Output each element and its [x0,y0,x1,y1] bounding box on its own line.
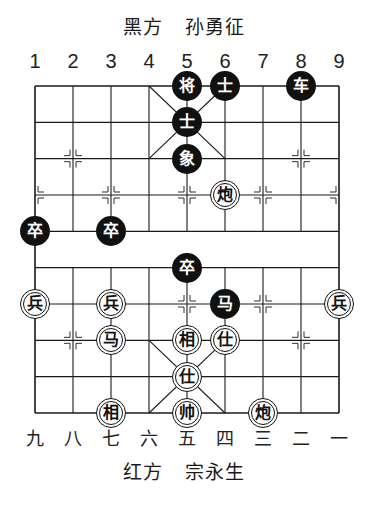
file-numeral-5: 五 [172,424,202,450]
piece-glyph: 兵 [27,296,43,312]
red-piece-兵[interactable]: 兵 [96,289,126,319]
file-numeral-7: 七 [96,424,126,450]
piece-glyph: 车 [293,78,309,94]
file-numeral-8: 八 [58,424,88,450]
red-piece-兵[interactable]: 兵 [324,289,354,319]
piece-glyph: 帅 [179,405,195,421]
red-side-footer: 红方宗永生 [0,457,368,484]
piece-glyph: 卒 [27,223,43,239]
piece-glyph: 炮 [217,187,233,203]
piece-glyph: 兵 [331,296,347,312]
piece-glyph: 将 [179,78,195,94]
piece-glyph: 马 [103,332,119,348]
piece-glyph: 相 [103,405,119,421]
piece-glyph: 仕 [179,369,195,385]
black-piece-车[interactable]: 车 [286,71,316,101]
piece-glyph: 相 [179,332,195,348]
file-numeral-4: 四 [210,424,240,450]
black-piece-象[interactable]: 象 [172,144,202,174]
file-numeral-1: 一 [324,424,354,450]
red-side-label: 红方 [123,461,163,483]
red-piece-炮[interactable]: 炮 [210,180,240,210]
file-numeral-6: 六 [134,424,164,450]
piece-glyph: 士 [179,114,195,130]
piece-glyph: 马 [217,296,233,312]
file-numeral-9: 九 [20,424,50,450]
black-piece-马[interactable]: 马 [210,289,240,319]
red-piece-仕[interactable]: 仕 [172,362,202,392]
piece-glyph: 兵 [103,296,119,312]
black-piece-卒[interactable]: 卒 [172,253,202,283]
red-piece-兵[interactable]: 兵 [20,289,50,319]
piece-glyph: 象 [179,151,195,167]
file-numeral-3: 三 [248,424,278,450]
black-piece-将[interactable]: 将 [172,71,202,101]
piece-glyph: 卒 [179,260,195,276]
piece-glyph: 炮 [255,405,271,421]
piece-glyph: 士 [217,78,233,94]
file-numeral-2: 二 [286,424,316,450]
red-player-name: 宗永生 [185,461,245,483]
piece-glyph: 仕 [217,332,233,348]
piece-glyph: 卒 [103,223,119,239]
black-piece-士[interactable]: 士 [210,71,240,101]
